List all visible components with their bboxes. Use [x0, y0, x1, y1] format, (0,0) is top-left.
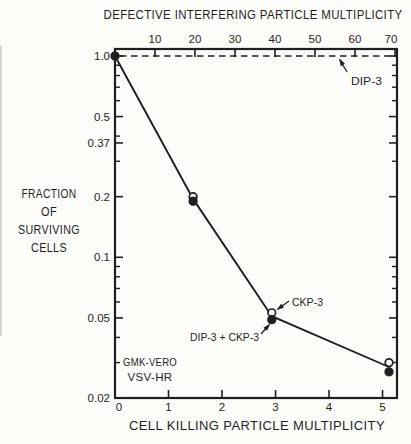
left-axis-tick-label: 1.0	[94, 50, 110, 62]
survival-curve-chart: 102030405060700123451.00.50.370.20.10.05…	[0, 0, 411, 444]
filled-circle-series-marker	[111, 52, 119, 60]
annotation-dip-3-label: DIP-3	[351, 75, 382, 87]
y-axis-title-line-1: FRACTION	[22, 187, 77, 201]
bottom-axis-tick-label: 0	[116, 401, 122, 413]
top-axis-title: DEFECTIVE INTERFERING PARTICLE MULTIPLIC…	[104, 8, 403, 22]
bottom-axis-tick-label: 4	[326, 401, 333, 413]
y-axis-title-line-2: OF	[41, 205, 57, 219]
left-axis-tick-label: 0.02	[88, 392, 110, 404]
survival-curve-line	[115, 56, 389, 367]
annotation-dip-3-arrowhead	[339, 58, 345, 66]
top-axis-tick-label: 20	[189, 33, 202, 45]
bottom-axis-tick-label: 2	[219, 401, 225, 413]
left-axis-tick-label: 0.5	[94, 111, 110, 123]
y-axis-title-line-4: CELLS	[31, 241, 67, 255]
y-axis-title-line-3: SURVIVING	[18, 223, 80, 237]
left-axis-tick-label: 0.2	[94, 191, 110, 203]
top-axis-tick-label: 60	[349, 33, 362, 45]
filled-circle-series-marker	[385, 368, 393, 376]
open-circle-series-marker	[385, 359, 393, 367]
plot-frame	[115, 49, 397, 398]
annotation-dip-3-ckp-3-label: DIP-3 + CKP-3	[190, 331, 259, 343]
inset-label-virus-strain: VSV-HR	[128, 371, 173, 383]
top-axis-tick-label: 10	[149, 33, 162, 45]
bottom-axis-tick-label: 5	[379, 401, 385, 413]
top-axis-tick-label: 40	[269, 33, 282, 45]
top-axis-tick-label: 30	[229, 33, 242, 45]
scan-edge-artifact	[0, 46, 2, 336]
left-axis-tick-label: 0.05	[88, 312, 110, 324]
bottom-axis-title: CELL KILLING PARTICLE MULTIPLICITY	[129, 419, 385, 433]
annotation-ckp-3-label: CKP-3	[292, 296, 323, 308]
bottom-axis-tick-label: 1	[165, 401, 171, 413]
top-axis-tick-label: 70	[385, 33, 398, 45]
left-axis-tick-label: 0.37	[88, 137, 110, 149]
filled-circle-series-marker	[189, 197, 197, 205]
inset-label-cell-line: GMK-VERO	[123, 356, 177, 368]
left-axis-tick-label: 0.1	[94, 251, 110, 263]
filled-circle-series-marker	[268, 316, 276, 324]
bottom-axis-tick-label: 3	[272, 401, 278, 413]
top-axis-tick-label: 50	[309, 33, 322, 45]
scanned-figure-page: 102030405060700123451.00.50.370.20.10.05…	[0, 0, 411, 444]
